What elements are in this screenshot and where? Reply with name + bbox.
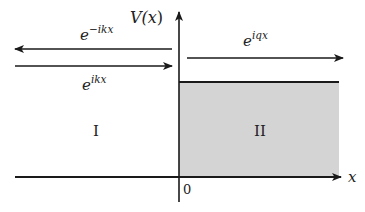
reflected-wave-label: e−ikx: [80, 23, 113, 44]
transmitted-wave-label: eiqx: [243, 29, 268, 50]
potential-step-diagram: V(x) e−ikx eikx eiqx I II 0 x: [0, 0, 365, 212]
origin-label: 0: [183, 182, 191, 197]
region-ii-label: II: [254, 122, 266, 140]
y-axis-label: V(x): [130, 8, 163, 27]
region-i-label: I: [93, 122, 99, 140]
x-axis-label: x: [348, 168, 357, 186]
incident-wave-label: eikx: [82, 73, 107, 94]
